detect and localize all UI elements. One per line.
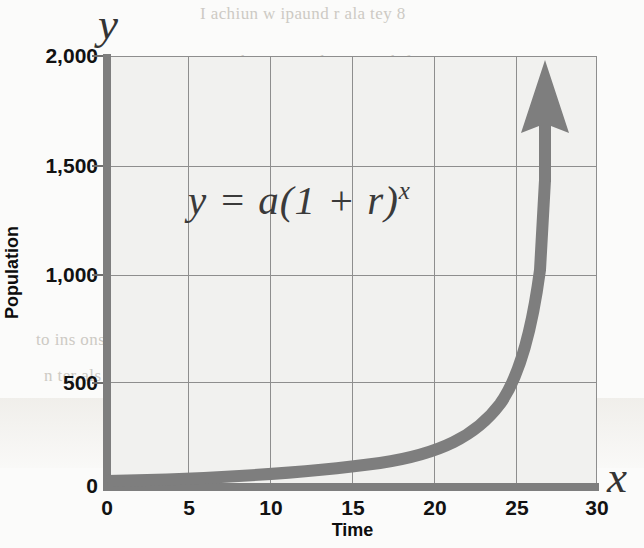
- data-curve-with-arrow: [0, 0, 644, 548]
- equation-base: y = a(1 + r): [188, 177, 399, 223]
- equation-exponent: x: [399, 177, 411, 204]
- exponential-growth-chart: 2,000 1,500 1,000 500 0 0 5 10 15 20 25 …: [0, 0, 644, 548]
- curve-arrowhead: [521, 60, 569, 182]
- exponential-curve-path: [107, 180, 545, 481]
- equation-annotation: y = a(1 + r)x: [188, 176, 411, 224]
